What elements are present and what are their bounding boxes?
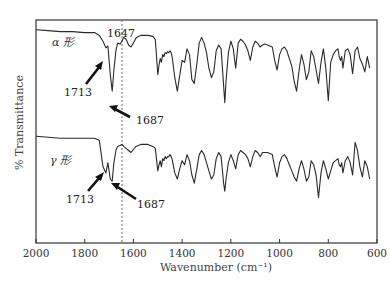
x-axis-ticks: 200018001600140012001000800600 <box>23 239 387 259</box>
ir-spectrum-chart: α 形 γ 形 1647 1713 1687 1713 1687 2000180… <box>0 0 390 286</box>
x-tick-label: 1000 <box>266 247 293 259</box>
arrow-1687-gamma <box>111 183 136 199</box>
x-axis-title: Wavenumber (cm⁻¹) <box>160 261 272 274</box>
annotation-1713-gamma: 1713 <box>66 193 94 206</box>
x-tick-label: 800 <box>318 247 338 259</box>
arrow-1713-gamma <box>88 172 104 191</box>
annotation-1713-alpha: 1713 <box>64 86 92 99</box>
x-tick-label: 600 <box>367 247 387 259</box>
arrow-1687-alpha <box>109 105 130 117</box>
gamma-form-trace <box>36 136 370 197</box>
annotation-1647: 1647 <box>107 27 135 40</box>
x-tick-label: 1600 <box>120 247 147 259</box>
annotation-1687-gamma: 1687 <box>137 198 165 211</box>
alpha-form-label: α 形 <box>52 36 76 49</box>
x-tick-label: 1400 <box>169 247 196 259</box>
gamma-form-label: γ 形 <box>50 154 73 167</box>
x-tick-label: 1200 <box>217 247 244 259</box>
x-tick-label: 2000 <box>23 247 50 259</box>
x-tick-label: 1800 <box>71 247 98 259</box>
arrow-1713-alpha <box>86 61 103 84</box>
y-axis-title: % Transmittance <box>13 75 26 170</box>
annotation-1687-alpha: 1687 <box>136 114 164 127</box>
